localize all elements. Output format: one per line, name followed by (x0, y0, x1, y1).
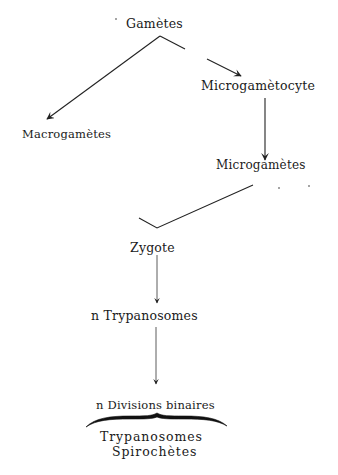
node-spirochetes: Spirochètes (112, 445, 197, 459)
node-microgametocyte: Microgamètocyte (201, 79, 315, 93)
node-zygote: Zygote (130, 241, 175, 255)
node-macrogametes: Macrogamètes (22, 127, 111, 141)
speck-dot (115, 18, 117, 20)
node-n-trypanosomes: n Trypanosomes (91, 309, 198, 323)
line-gametes-right-branch (160, 36, 185, 49)
arrow-gametes-to-macrogametes (47, 36, 160, 119)
node-microgametes: Microgamètes (216, 158, 306, 172)
node-gametes: Gamètes (126, 17, 183, 31)
arrow-to-microgametocyte (207, 59, 241, 76)
node-n-divisions-binaires: n Divisions binaires (96, 398, 215, 412)
speck-dot (278, 187, 280, 189)
speck-dot (308, 185, 310, 187)
curly-brace (86, 413, 227, 427)
line-microgametes-to-zygote (139, 185, 253, 228)
node-trypanosomes: Trypanosomes (100, 430, 203, 444)
